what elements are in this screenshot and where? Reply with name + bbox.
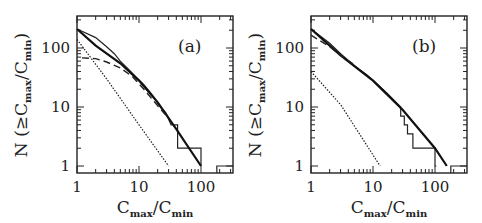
data-series bbox=[77, 29, 233, 173]
x-axis-label: Cmax/Cmin bbox=[117, 197, 194, 219]
axes-frame bbox=[77, 16, 233, 173]
x-axis-label: Cmax/Cmin bbox=[351, 197, 428, 219]
xtick-label: 100 bbox=[187, 178, 216, 196]
data-series bbox=[311, 29, 467, 173]
panel-a: (a) 100 10 1 1 10 100 Cmax/Cmin N (≥Cmax… bbox=[11, 16, 233, 219]
xtick-label: 100 bbox=[421, 178, 450, 196]
ytick-label: 1 bbox=[294, 157, 304, 175]
series-dotted bbox=[311, 72, 380, 167]
y-axis-label: N (≥Cmax/Cmin) bbox=[11, 33, 33, 157]
xtick-label: 1 bbox=[72, 178, 82, 196]
ticks bbox=[77, 16, 233, 173]
xtick-label: 1 bbox=[306, 178, 316, 196]
ytick-label: 10 bbox=[51, 98, 70, 116]
ytick-label: 10 bbox=[285, 98, 304, 116]
figure: (a) 100 10 1 1 10 100 Cmax/Cmin N (≥Cmax… bbox=[0, 0, 482, 223]
panel-label: (a) bbox=[178, 36, 201, 56]
ytick-label: 1 bbox=[60, 157, 70, 175]
panel-b: (b) 100 10 1 1 10 100 Cmax/Cmin N (≥Cmax… bbox=[245, 16, 467, 219]
panel-label: (b) bbox=[412, 36, 436, 56]
ytick-label: 100 bbox=[41, 39, 70, 57]
y-axis-label: N (≥Cmax/Cmin) bbox=[245, 33, 267, 157]
ytick-label: 100 bbox=[275, 39, 304, 57]
xtick-label: 10 bbox=[129, 178, 148, 196]
series-dashed bbox=[311, 35, 354, 65]
xtick-label: 10 bbox=[363, 178, 382, 196]
